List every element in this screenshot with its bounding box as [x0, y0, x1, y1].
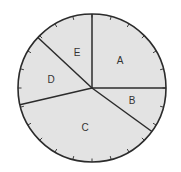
slice-label-d: D — [47, 74, 54, 85]
slice-label-e: E — [74, 47, 81, 58]
slice-label-c: C — [81, 122, 88, 133]
pie-chart: A B C D E — [0, 0, 181, 172]
slice-label-b: B — [129, 95, 136, 106]
slice-label-a: A — [117, 55, 124, 66]
